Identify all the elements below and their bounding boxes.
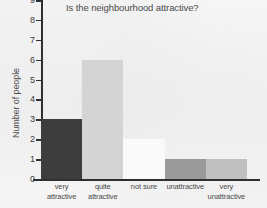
- y-tick-mark: [36, 179, 41, 181]
- x-tick-label-line: attractive: [82, 192, 123, 202]
- y-tick-label: 2: [22, 135, 35, 144]
- x-axis-line: [33, 179, 260, 181]
- y-tick-label: 6: [22, 55, 35, 64]
- x-tick-label-line: not sure: [123, 182, 164, 192]
- x-tick-label: veryunattractive: [206, 182, 247, 201]
- y-tick-label: 9: [22, 0, 35, 5]
- plot-area: 0123456789: [41, 0, 247, 179]
- x-tick-label: veryattractive: [41, 182, 82, 201]
- bar: [41, 119, 82, 179]
- y-tick-label: 7: [22, 35, 35, 44]
- bar: [82, 60, 123, 179]
- y-tick-label: 0: [22, 175, 35, 184]
- y-tick-label: 1: [22, 155, 35, 164]
- x-tick-label-line: very: [206, 182, 247, 192]
- x-tick-label-line: very: [41, 182, 82, 192]
- x-tick-label-line: attractive: [41, 192, 82, 202]
- x-axis-labels: veryattractivequiteattractivenot sureuna…: [41, 182, 247, 208]
- x-tick-label-line: unattractive: [206, 192, 247, 202]
- x-tick-label: not sure: [123, 182, 164, 192]
- bar: [165, 159, 206, 179]
- y-axis-title: Number of people: [11, 43, 21, 163]
- x-tick-label-line: unattractive: [165, 182, 206, 192]
- y-tick-label: 4: [22, 95, 35, 104]
- bar: [123, 139, 164, 179]
- x-tick-label-line: quite: [82, 182, 123, 192]
- y-tick-label: 5: [22, 75, 35, 84]
- x-tick-label: unattractive: [165, 182, 206, 192]
- bar: [206, 159, 247, 179]
- y-tick-label: 8: [22, 15, 35, 24]
- x-tick-label: quiteattractive: [82, 182, 123, 201]
- bars-group: [41, 0, 247, 179]
- y-tick-label: 3: [22, 115, 35, 124]
- chart-screenshot: Is the neighbourhood attractive? Number …: [0, 0, 267, 208]
